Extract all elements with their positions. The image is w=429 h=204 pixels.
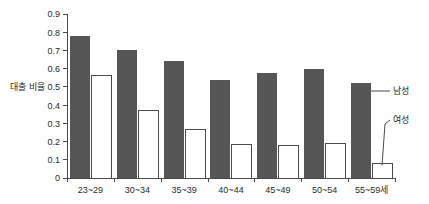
bar-female <box>231 144 251 178</box>
bar-female <box>91 75 111 178</box>
x-tick-label: 30~34 <box>125 185 150 195</box>
bar-female <box>278 145 298 178</box>
bar-male <box>351 83 371 178</box>
y-tick-label: 0.6 <box>47 64 60 74</box>
annotation-female: 여성 <box>382 114 409 165</box>
x-tick-label: 50~54 <box>312 185 337 195</box>
y-tick-label: 0.2 <box>47 137 60 147</box>
bar-female <box>138 111 158 178</box>
y-tick-label: 0.3 <box>47 119 60 129</box>
bar-female <box>372 163 392 178</box>
y-tick-label: 0.8 <box>47 28 60 38</box>
x-tick-label: 35~39 <box>172 185 197 195</box>
bar-male <box>304 69 324 178</box>
y-tick-label: 0.4 <box>47 101 60 111</box>
x-tick-label: 55~59세 <box>355 185 388 195</box>
bar-chart-loan-ratio-by-age: 0.90.80.70.60.50.40.30.20.10대출 비율23~2930… <box>0 0 429 204</box>
bar-male <box>210 80 230 178</box>
bar-female <box>325 143 345 178</box>
bar-female <box>185 130 205 178</box>
annotation-male-label: 남성 <box>393 86 409 96</box>
y-axis-ticks: 0.90.80.70.60.50.40.30.20.10 <box>47 9 67 183</box>
y-tick-label: 0 <box>55 173 60 183</box>
bar-male <box>164 61 184 178</box>
chart-canvas: 0.90.80.70.60.50.40.30.20.10대출 비율23~2930… <box>0 0 429 204</box>
y-tick-label: 0.5 <box>47 82 60 92</box>
annotation-female-label: 여성 <box>393 114 409 125</box>
x-tick-label: 40~44 <box>218 185 243 195</box>
bar-male <box>117 50 137 178</box>
x-tick-label: 45~49 <box>265 185 290 195</box>
y-tick-label: 0.9 <box>47 9 60 19</box>
y-axis-title: 대출 비율 <box>10 82 45 92</box>
y-tick-label: 0.7 <box>47 46 60 56</box>
annotation-male: 남성 <box>371 86 409 96</box>
bar-male <box>70 36 90 178</box>
bar-male <box>257 73 277 178</box>
y-tick-label: 0.1 <box>47 155 60 165</box>
x-tick-label: 23~29 <box>78 185 103 195</box>
